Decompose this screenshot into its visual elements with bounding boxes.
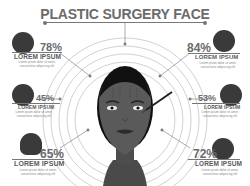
stat-percent: 53% [198,93,216,103]
stat-description: Lorem ipsum dolor sit amet, consectetur … [198,62,238,70]
stat-label: LOREM IPSUM [195,54,238,60]
stat-label: LOREM IPSUM [14,53,61,60]
stat-percent: 45% [36,93,54,103]
face-portrait-icon [20,133,42,155]
stat-description: Lorem ipsum dolor sit amet, consectetur … [17,61,57,69]
stat-description: Lorem ipsum dolor sit amet, consectetur … [18,169,58,177]
stat-label: LOREM IPSUM [195,160,242,167]
eye-icon [12,32,34,54]
lips-icon [213,30,235,52]
stat-description: Lorem ipsum dolor sit amet, consectetur … [14,111,54,119]
stat-description: Lorem ipsum dolor sit amet, consectetur … [200,111,240,119]
stat-label: LOREM IPSUM [14,160,65,167]
stat-description: Lorem ipsum dolor sit amet, consectetur … [200,169,240,177]
